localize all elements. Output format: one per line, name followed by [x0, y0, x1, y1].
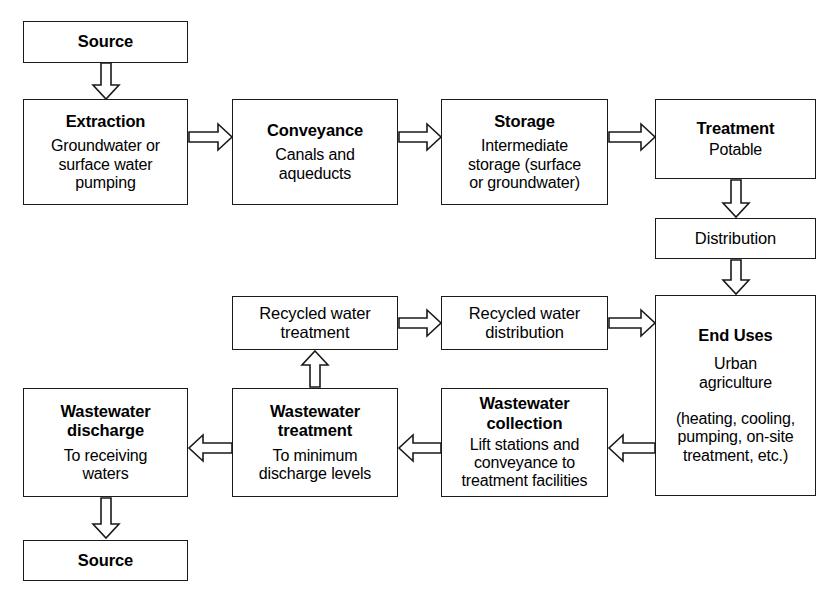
node-subtitle: Intermediate storage (surface or groundw…	[468, 137, 581, 192]
arrow-end-uses-to-wastewater-collection	[609, 434, 656, 462]
arrow-recycled-distribution-to-end-uses	[609, 309, 656, 337]
node-title: Recycled water distribution	[469, 304, 580, 343]
arrow-treatment-to-distribution	[722, 180, 750, 218]
arrow-wastewater-discharge-to-source	[92, 498, 120, 539]
node-subtitle: To minimum discharge levels	[259, 447, 371, 483]
node-end-uses[interactable]: End Uses Urban agriculture (heating, coo…	[655, 295, 816, 496]
arrow-conveyance-to-storage	[399, 123, 442, 151]
node-treatment[interactable]: Treatment Potable	[655, 99, 816, 179]
node-source-bottom[interactable]: Source	[23, 540, 188, 581]
node-subtitle: To receiving waters	[64, 447, 148, 483]
arrow-source-to-extraction	[92, 63, 120, 100]
node-extraction[interactable]: Extraction Groundwater or surface water …	[23, 99, 188, 205]
node-wastewater-discharge[interactable]: Wastewater discharge To receiving waters	[23, 388, 188, 497]
node-wastewater-collection[interactable]: Wastewater collection Lift stations and …	[441, 388, 608, 497]
arrow-recycled-treatment-to-distribution	[399, 309, 442, 337]
node-source-top[interactable]: Source	[23, 21, 188, 63]
node-subtitle: Canals and aqueducts	[275, 146, 354, 182]
node-title: Source	[78, 551, 133, 570]
node-distribution[interactable]: Distribution	[655, 218, 816, 259]
node-recycled-water-treatment[interactable]: Recycled water treatment	[232, 296, 398, 350]
node-wastewater-treatment[interactable]: Wastewater treatment To minimum discharg…	[232, 388, 398, 497]
node-title: Wastewater collection	[479, 394, 569, 433]
node-title: End Uses	[698, 326, 772, 345]
arrow-distribution-to-end-uses	[722, 260, 750, 295]
node-title: Wastewater treatment	[270, 402, 360, 441]
arrow-wastewater-treatment-to-discharge	[189, 434, 233, 462]
node-subtitle: Groundwater or surface water pumping	[51, 137, 160, 192]
flow-diagram-canvas: Source Extraction Groundwater or surface…	[0, 0, 834, 600]
node-subtitle: Lift stations and conveyance to treatmen…	[462, 436, 588, 491]
arrow-extraction-to-conveyance	[189, 123, 233, 151]
node-title: Storage	[494, 112, 555, 131]
node-title: Source	[78, 32, 133, 51]
node-title: Conveyance	[267, 121, 363, 140]
arrow-wastewater-treatment-to-recycled-treatment	[301, 351, 329, 388]
node-storage[interactable]: Storage Intermediate storage (surface or…	[441, 99, 608, 205]
node-conveyance[interactable]: Conveyance Canals and aqueducts	[232, 99, 398, 205]
node-title: Recycled water treatment	[259, 304, 370, 343]
arrow-storage-to-treatment	[609, 123, 656, 151]
node-recycled-water-distribution[interactable]: Recycled water distribution	[441, 296, 608, 350]
node-title: Extraction	[66, 112, 146, 131]
node-subtitle: Urban agriculture (heating, cooling, pum…	[676, 355, 795, 464]
node-subtitle: Potable	[709, 141, 762, 159]
node-title: Distribution	[695, 229, 776, 248]
arrow-wastewater-collection-to-treatment	[399, 434, 442, 462]
node-title: Wastewater discharge	[60, 402, 150, 441]
node-title: Treatment	[697, 119, 775, 138]
